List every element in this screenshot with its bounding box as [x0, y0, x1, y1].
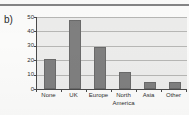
bar — [119, 72, 131, 89]
y-axis-tick-mark — [34, 17, 37, 18]
y-axis-tick-mark — [34, 75, 37, 76]
y-axis-tick-label: 40 — [27, 28, 34, 35]
y-axis-tick-label: 10 — [27, 71, 34, 78]
bar — [69, 20, 81, 89]
y-axis-tick-mark — [34, 60, 37, 61]
y-axis-tick-labels: 01020304050 — [16, 13, 34, 93]
bar — [169, 82, 181, 89]
bar — [94, 47, 106, 89]
bar — [144, 82, 156, 89]
y-axis-tick-label: 30 — [27, 42, 34, 49]
panel-label: b) — [4, 14, 13, 25]
plot-area — [36, 17, 187, 90]
figure-panel-b: b) 01020304050 NoneUKEuropeNorth America… — [0, 0, 189, 115]
y-axis-tick-mark — [34, 46, 37, 47]
x-axis-tick-labels: NoneUKEuropeNorth AmericaAsiaOther — [36, 92, 186, 114]
y-axis-tick-label: 20 — [27, 57, 34, 64]
page-rule-divider — [0, 4, 189, 6]
bar-series — [37, 17, 187, 89]
y-axis-tick-label: 50 — [27, 14, 34, 21]
y-axis-tick-mark — [34, 31, 37, 32]
x-axis-tick-label: Other — [157, 92, 189, 100]
bar — [44, 59, 56, 89]
